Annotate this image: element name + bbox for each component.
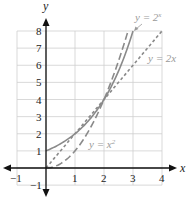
x-tick-label: −1 — [10, 172, 22, 184]
label-2-power-x: y = 2x — [134, 11, 162, 23]
y-tick-label: 7 — [36, 42, 42, 54]
y-tick-label: 3 — [36, 111, 42, 123]
y-tick-label: 5 — [36, 76, 42, 88]
x-axis-right-arrow-icon — [169, 165, 177, 172]
y-tick-label: −1 — [30, 179, 42, 191]
x-axis-left-arrow-icon — [3, 165, 11, 172]
label-2x: y = 2x — [147, 52, 176, 64]
y-axis-label: y — [42, 0, 49, 13]
x-tick-label: 4 — [159, 172, 165, 184]
x-tick-label: 2 — [101, 172, 107, 184]
label-x-squared: y = x2 — [88, 138, 116, 150]
curve-solid — [46, 31, 133, 151]
x-tick-label: 3 — [130, 172, 136, 184]
x-axis-label: x — [179, 161, 186, 175]
y-tick-label: 6 — [36, 59, 42, 71]
y-tick-label: 2 — [36, 128, 42, 140]
y-tick-label: 1 — [36, 145, 42, 157]
y-axis-down-arrow-icon — [43, 189, 50, 197]
y-tick-labels: −112345678 — [30, 25, 42, 191]
y-tick-label: 8 — [36, 25, 42, 37]
x-tick-label: 1 — [72, 172, 78, 184]
y-tick-label: 4 — [36, 94, 42, 106]
y-axis-up-arrow-icon — [43, 18, 50, 26]
function-graph: x y −11234 −112345678 y = 2x y = 2x y = … — [0, 0, 187, 199]
